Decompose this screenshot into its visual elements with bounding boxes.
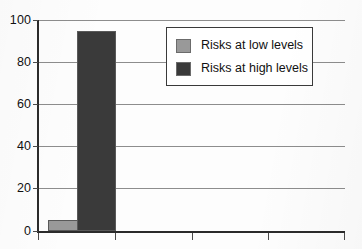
- bar-risks-at-low-levels: [48, 220, 78, 231]
- legend-item-risks-at-high-levels: Risks at high levels: [176, 57, 312, 80]
- legend-swatch-icon-low: [176, 39, 191, 53]
- legend-label-high: Risks at high levels: [201, 62, 308, 75]
- y-tick-mark-40: [33, 146, 38, 147]
- legend-swatch-icon-high: [176, 62, 191, 76]
- y-tick-label-100: 100: [10, 14, 31, 27]
- y-tick-mark-0: [33, 231, 38, 232]
- legend-item-risks-at-low-levels: Risks at low levels: [176, 34, 312, 57]
- x-tick-mark-3: [268, 233, 269, 240]
- y-tick-label-60: 60: [17, 98, 31, 111]
- x-tick-mark-0: [38, 233, 39, 240]
- bar-risks-at-high-levels: [77, 31, 116, 231]
- y-axis-line: [37, 20, 39, 233]
- y-tick-mark-100: [33, 20, 38, 21]
- x-tick-mark-4: [344, 233, 345, 240]
- x-tick-mark-1: [115, 233, 116, 240]
- y-tick-mark-80: [33, 62, 38, 63]
- legend-label-low: Risks at low levels: [201, 39, 303, 52]
- bar-chart-figure: 100 80 60 40 20 0 Risks at low levels Ri…: [0, 0, 362, 249]
- y-tick-mark-20: [33, 188, 38, 189]
- y-tick-label-20: 20: [17, 182, 31, 195]
- chart-legend: Risks at low levels Risks at high levels: [166, 27, 313, 86]
- y-tick-label-0: 0: [24, 225, 31, 238]
- y-tick-label-40: 40: [17, 140, 31, 153]
- x-tick-mark-2: [192, 233, 193, 240]
- y-tick-mark-60: [33, 104, 38, 105]
- y-tick-label-80: 80: [17, 56, 31, 69]
- gridline-100: [38, 20, 345, 21]
